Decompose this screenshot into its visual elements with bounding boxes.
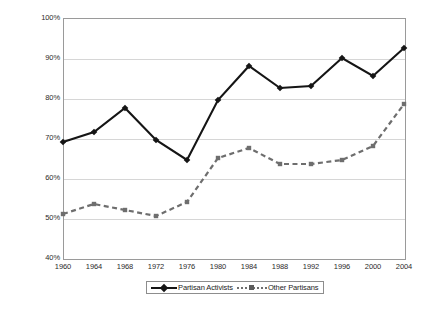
y-axis-tick-label: 90% [4, 54, 60, 62]
legend-marker-square-icon [237, 283, 267, 292]
y-axis-tick-label: 40% [4, 254, 60, 262]
gridline [64, 219, 405, 220]
gridline [64, 179, 405, 180]
chart-container: 100%90%80%70%60%50%40% 19601964196819721… [0, 0, 432, 310]
y-axis-tick-label: 80% [4, 94, 60, 102]
plot-area [63, 18, 406, 260]
legend-entry-partisan-activists: Partisan Activists [151, 282, 233, 293]
chart-legend: Partisan Activists Other Partisans [146, 281, 324, 294]
y-axis-tick-label: 50% [4, 214, 60, 222]
legend-entry-other-partisans: Other Partisans [237, 282, 319, 293]
y-axis: 100%90%80%70%60%50%40% [0, 0, 60, 280]
gridline [64, 139, 405, 140]
legend-label-series-1: Partisan Activists [178, 283, 233, 292]
gridline [64, 99, 405, 100]
x-axis: 1960196419681972197619801984198819921996… [63, 262, 404, 276]
legend-marker-diamond-icon [151, 283, 177, 292]
y-axis-tick-label: 70% [4, 134, 60, 142]
x-axis-tick-label: 2004 [384, 262, 424, 271]
legend-label-series-2: Other Partisans [268, 283, 319, 292]
gridline [64, 59, 405, 60]
y-axis-tick-label: 100% [4, 14, 60, 22]
y-axis-tick-label: 60% [4, 174, 60, 182]
